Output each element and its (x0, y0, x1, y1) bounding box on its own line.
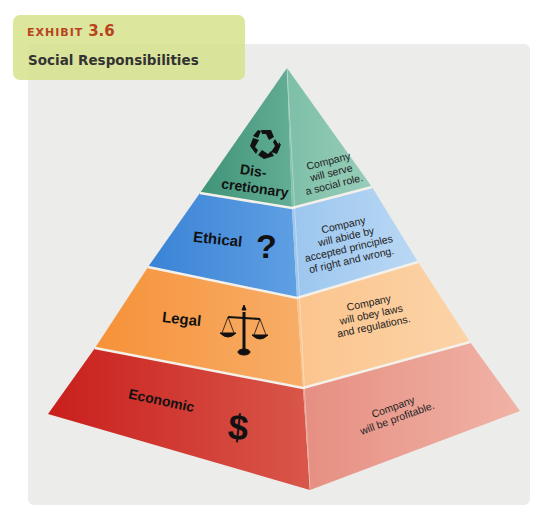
dollar-sign-icon: $ (226, 406, 250, 449)
pyramid-diagram: Dis- cretionary Company will serve a soc… (0, 0, 547, 522)
question-mark-icon: ? (256, 227, 277, 265)
